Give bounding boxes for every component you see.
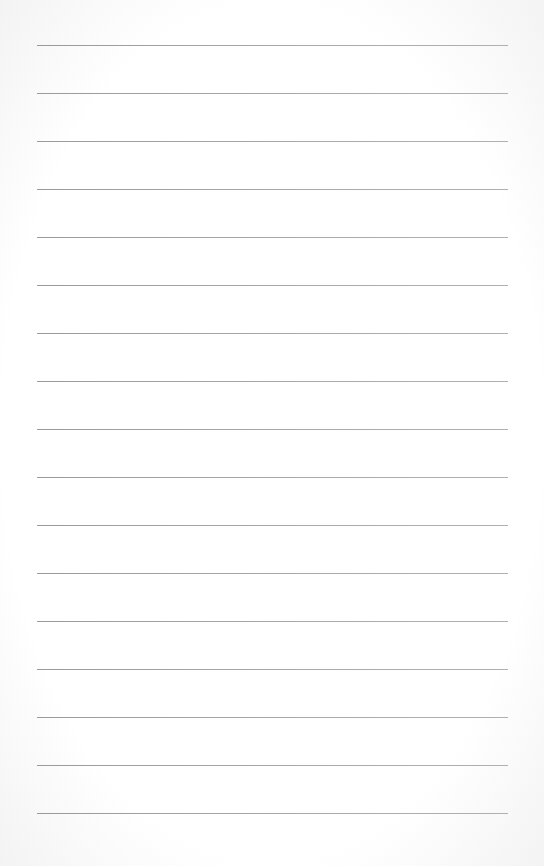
ruled-line (37, 237, 508, 238)
ruled-line (37, 285, 508, 286)
ruled-line (37, 93, 508, 94)
ruled-line (37, 813, 508, 814)
lined-paper-page (0, 0, 544, 866)
ruled-line (37, 429, 508, 430)
ruled-line (37, 381, 508, 382)
ruled-line (37, 45, 508, 46)
ruled-line (37, 189, 508, 190)
ruled-line (37, 525, 508, 526)
ruled-line (37, 477, 508, 478)
ruled-line (37, 141, 508, 142)
ruled-line (37, 669, 508, 670)
ruled-line (37, 333, 508, 334)
ruled-line (37, 765, 508, 766)
ruled-line (37, 621, 508, 622)
ruled-line (37, 717, 508, 718)
ruled-line (37, 573, 508, 574)
